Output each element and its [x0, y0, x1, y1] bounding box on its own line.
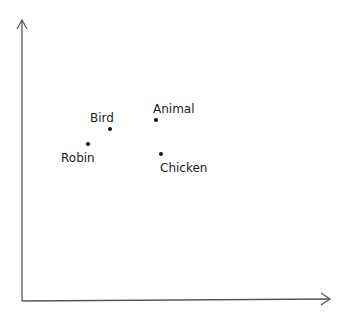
- label-bird: Bird: [90, 112, 114, 124]
- label-robin: Robin: [61, 152, 95, 164]
- point-chicken: [159, 152, 163, 156]
- label-chicken: Chicken: [160, 162, 207, 174]
- label-animal: Animal: [153, 103, 195, 115]
- y-axis: [17, 20, 27, 301]
- point-bird: [108, 127, 112, 131]
- scatter-plot: [0, 0, 344, 319]
- x-axis: [22, 293, 330, 305]
- point-robin: [86, 142, 90, 146]
- point-animal: [154, 118, 158, 122]
